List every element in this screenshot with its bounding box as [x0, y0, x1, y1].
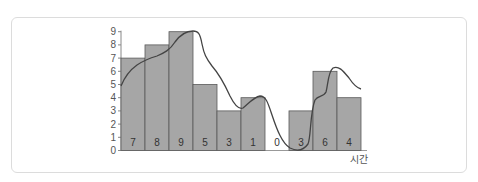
bar-value-label: 4	[346, 137, 352, 148]
bar	[145, 45, 169, 151]
bar-value-label: 5	[202, 137, 208, 148]
y-tick-label: 4	[110, 92, 116, 103]
y-tick-label: 6	[110, 66, 116, 77]
bar	[169, 32, 193, 151]
y-tick-label: 3	[110, 105, 116, 116]
y-tick-label: 8	[110, 39, 116, 50]
y-tick-label: 9	[110, 26, 116, 37]
y-tick-label: 7	[110, 53, 116, 64]
x-axis-label: 시간	[350, 154, 368, 165]
bar-value-label: 7	[130, 137, 136, 148]
y-tick-label: 0	[110, 145, 116, 156]
y-tick-label: 1	[110, 132, 116, 143]
bar-value-label: 9	[178, 137, 184, 148]
bar-value-label: 1	[250, 137, 256, 148]
bar-value-label: 8	[154, 137, 160, 148]
bars	[121, 32, 361, 151]
bar-value-label: 0	[274, 137, 280, 148]
bar-value-label: 3	[298, 137, 304, 148]
y-tick-label: 5	[110, 79, 116, 90]
y-tick-label: 2	[110, 119, 116, 130]
bar-chart: 0123456789 7895310364 시간	[0, 0, 478, 182]
bar-value-label: 6	[322, 137, 328, 148]
bar-value-label: 3	[226, 137, 232, 148]
